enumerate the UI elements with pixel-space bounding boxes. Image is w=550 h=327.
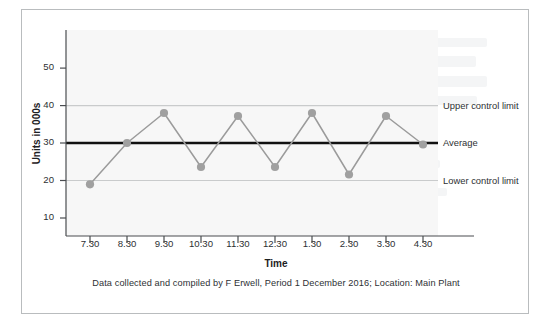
average-label: Average [443,137,478,148]
control-chart-svg [22,10,530,315]
figure-frame: 10 20 30 40 50 7.30 8.30 9.30 10.30 11.3… [21,9,529,314]
plot-background [66,30,438,236]
x-tick-label: 3.30 [366,238,406,249]
data-point-marker [382,112,390,120]
x-tick-label: 8.30 [107,238,147,249]
x-axis-title: Time [22,258,530,269]
data-point-marker [345,170,353,178]
x-tick-label: 7.30 [70,238,110,249]
y-tick-label: 10 [22,211,54,222]
x-tick-label: 1.30 [292,238,332,249]
x-tick-label: 12.30 [255,238,295,249]
data-point-marker [271,163,279,171]
x-tick-label: 11.30 [218,238,258,249]
y-axis-title: Units in 000s [31,74,42,194]
control-chart: 10 20 30 40 50 7.30 8.30 9.30 10.30 11.3… [22,10,530,315]
y-tick-label: 50 [22,61,54,72]
data-point-marker [197,163,205,171]
data-point-marker [123,139,131,147]
data-point-marker [86,180,94,188]
lower-control-limit-label: Lower control limit [443,175,519,186]
x-tick-label: 10.30 [181,238,221,249]
x-tick-label: 2.30 [329,238,369,249]
figure-caption: Data collected and compiled by F Erwell,… [22,278,530,288]
x-tick-label: 4.30 [403,238,443,249]
data-point-marker [308,109,316,117]
x-tick-label: 9.30 [144,238,184,249]
data-point-marker [419,140,427,148]
data-point-marker [160,109,168,117]
data-point-marker [234,112,242,120]
upper-control-limit-label: Upper control limit [443,100,519,111]
